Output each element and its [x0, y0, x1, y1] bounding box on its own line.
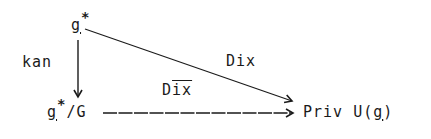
- label-dix: Dix: [226, 53, 256, 70]
- dixbar-D: D: [162, 81, 172, 99]
- label-dix-bar: Dix: [162, 82, 192, 99]
- g-symbol: g: [47, 103, 57, 121]
- star-superscript: *: [57, 96, 66, 112]
- quotient-G: /G: [66, 103, 86, 121]
- star-superscript: *: [81, 9, 90, 25]
- g-symbol: g: [373, 103, 383, 121]
- commutative-diagram: g* g*/G Priv U(g) kan Dix Dix: [0, 0, 431, 139]
- close-paren: ): [383, 103, 393, 121]
- priv-U-prefix: Priv U(: [303, 103, 373, 121]
- node-g-star: g*: [71, 17, 90, 34]
- label-kan: kan: [22, 54, 52, 71]
- g-symbol: g: [71, 16, 81, 34]
- node-priv-U-g: Priv U(g): [303, 104, 393, 121]
- node-g-star-mod-G: g*/G: [47, 104, 87, 121]
- dixbar-overlined-ix: ix: [172, 81, 192, 99]
